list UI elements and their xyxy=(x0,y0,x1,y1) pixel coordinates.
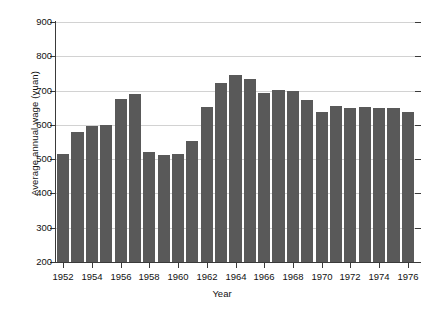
bar-cell xyxy=(228,22,242,262)
bar-cell xyxy=(185,22,199,262)
y-axis-tick-right xyxy=(415,159,421,160)
x-axis-tick xyxy=(63,263,64,268)
bar-cell xyxy=(343,22,357,262)
bar xyxy=(186,141,198,262)
bar-cell xyxy=(142,22,156,262)
y-axis-tick-label: 500 xyxy=(18,153,52,164)
bar-chart: Average annual wage (yuan) 2003004005006… xyxy=(0,0,444,312)
x-axis-tick xyxy=(236,263,237,268)
x-axis-tick xyxy=(121,263,122,268)
y-axis-line xyxy=(55,21,56,263)
bar xyxy=(201,107,213,262)
y-axis-tick-label: 600 xyxy=(18,119,52,130)
y-axis-tick-right xyxy=(415,193,421,194)
bar xyxy=(330,106,342,262)
bar-cell xyxy=(200,22,214,262)
bar-cell xyxy=(257,22,271,262)
bar xyxy=(215,83,227,262)
bar xyxy=(71,132,83,262)
bar xyxy=(344,108,356,262)
y-axis-tick-right xyxy=(415,125,421,126)
bar-series xyxy=(56,22,415,262)
bar xyxy=(258,93,270,262)
bar-cell xyxy=(286,22,300,262)
y-axis-tick-label: 200 xyxy=(18,256,52,267)
bar xyxy=(316,112,328,262)
y-axis-tick-right xyxy=(415,91,421,92)
bar xyxy=(387,108,399,262)
bar-cell xyxy=(214,22,228,262)
bar xyxy=(229,75,241,262)
bar xyxy=(244,79,256,262)
bar-cell xyxy=(85,22,99,262)
bar-cell xyxy=(329,22,343,262)
bar xyxy=(86,126,98,262)
bar xyxy=(158,155,170,262)
x-axis-tick xyxy=(149,263,150,268)
bar-cell xyxy=(171,22,185,262)
bar-cell xyxy=(386,22,400,262)
bar xyxy=(272,90,284,262)
bar xyxy=(301,100,313,262)
bar-cell xyxy=(128,22,142,262)
y-axis-tick-label: 700 xyxy=(18,85,52,96)
bar-cell xyxy=(56,22,70,262)
bar xyxy=(402,112,414,262)
y-axis-tick-right xyxy=(415,262,421,263)
y-axis-tick-right xyxy=(415,228,421,229)
bar xyxy=(359,107,371,262)
bar-cell xyxy=(314,22,328,262)
y-axis-tick-right xyxy=(415,22,421,23)
bar-cell xyxy=(300,22,314,262)
x-axis-tick xyxy=(92,263,93,268)
x-axis-title: Year xyxy=(0,288,444,299)
bar xyxy=(100,125,112,262)
x-axis-tick xyxy=(207,263,208,268)
plot-area xyxy=(56,22,415,262)
bar xyxy=(57,154,69,262)
bar xyxy=(115,99,127,262)
bar-cell xyxy=(401,22,415,262)
bar-cell xyxy=(113,22,127,262)
bar-cell xyxy=(358,22,372,262)
bar xyxy=(143,152,155,262)
x-axis-tick xyxy=(322,263,323,268)
y-axis-tick-label: 900 xyxy=(18,16,52,27)
bar-cell xyxy=(157,22,171,262)
bar xyxy=(172,154,184,262)
bar-cell xyxy=(99,22,113,262)
x-axis-tick-label: 1976 xyxy=(388,271,428,282)
bar-cell xyxy=(372,22,386,262)
y-axis-tick-label: 300 xyxy=(18,222,52,233)
x-axis-tick xyxy=(350,263,351,268)
y-axis-tick-label: 400 xyxy=(18,187,52,198)
x-axis-tick xyxy=(408,263,409,268)
bar-cell xyxy=(243,22,257,262)
bar xyxy=(287,91,299,262)
bar xyxy=(373,108,385,262)
bar-cell xyxy=(70,22,84,262)
x-axis-tick xyxy=(264,263,265,268)
bar-cell xyxy=(271,22,285,262)
x-axis-tick xyxy=(379,263,380,268)
y-axis-tick-label: 800 xyxy=(18,50,52,61)
bar xyxy=(129,94,141,262)
x-axis-tick xyxy=(293,263,294,268)
x-axis-tick xyxy=(178,263,179,268)
y-axis-tick-right xyxy=(415,56,421,57)
